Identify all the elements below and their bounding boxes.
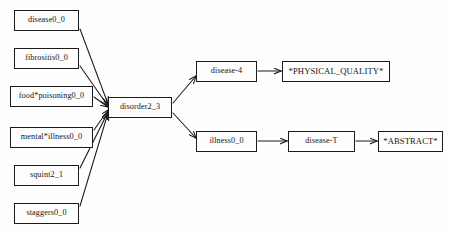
node-label: illness0_0 [209, 137, 243, 145]
node-label: *PHYSICAL_QUALITY* [289, 67, 384, 76]
edge-layer [0, 0, 449, 236]
node-label: disorder2_3 [120, 103, 160, 111]
node-squint2_1[interactable]: squint2_1 [14, 165, 79, 186]
edge-mental_illness0_0-to-disorder2_3 [94, 110, 108, 130]
diagram-canvas: disease0_0fibrositis0_0food*poisoning0_0… [0, 0, 449, 236]
node-disease-4[interactable]: disease-4 [196, 61, 257, 82]
node-physical_quality[interactable]: *PHYSICAL_QUALITY* [282, 61, 390, 82]
node-illness0_0[interactable]: illness0_0 [196, 131, 257, 152]
node-disease0_0[interactable]: disease0_0 [14, 10, 79, 31]
edge-food_poisoning0_0-to-disorder2_3 [94, 97, 108, 107]
node-mental_illness0_0[interactable]: mental*illness0_0 [10, 127, 93, 148]
node-disorder2_3[interactable]: disorder2_3 [108, 97, 172, 118]
node-label: disease-4 [211, 67, 242, 75]
node-staggers0_0[interactable]: staggers0_0 [14, 203, 79, 224]
node-abstract[interactable]: *ABSTRACT* [378, 131, 443, 152]
node-label: fibrositis0_0 [25, 54, 68, 62]
node-label: disease-T [305, 137, 337, 145]
edge-disorder2_3-to-illness0_0 [173, 113, 196, 138]
node-label: squint2_1 [30, 171, 63, 179]
node-label: food*poisoning0_0 [19, 92, 84, 100]
node-disease-T[interactable]: disease-T [288, 131, 355, 152]
node-fibrositis0_0[interactable]: fibrositis0_0 [14, 48, 79, 69]
node-label: *ABSTRACT* [383, 137, 437, 146]
node-food_poisoning0_0[interactable]: food*poisoning0_0 [10, 86, 93, 107]
node-label: staggers0_0 [26, 209, 66, 217]
node-label: disease0_0 [28, 16, 65, 24]
node-label: mental*illness0_0 [21, 133, 82, 141]
edge-disorder2_3-to-disease-4 [173, 76, 196, 103]
